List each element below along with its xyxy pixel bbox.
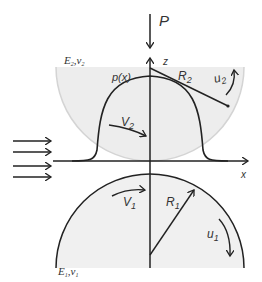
- inflow-arrows: [13, 141, 51, 177]
- upper-material-label: E2,ν2: [63, 54, 84, 67]
- pressure-label: p(x): [111, 71, 131, 83]
- load-label: P: [159, 12, 169, 29]
- x-axis-label: x: [240, 169, 247, 180]
- contact-diagram: P z x p(x) R2 u2 V2 R1 u1 V1 E2,ν2 E1,ν1: [0, 0, 262, 282]
- lower-material-label: E1,ν1: [57, 265, 78, 278]
- z-axis-label: z: [162, 56, 168, 67]
